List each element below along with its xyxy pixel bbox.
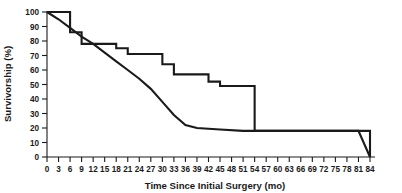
- x-tick-label-54: 54: [250, 165, 260, 174]
- y-axis-ticks: [42, 12, 47, 157]
- x-tick-label-57: 57: [262, 165, 272, 174]
- x-axis-tick-labels: 0369121518212427303336394245485154576063…: [45, 165, 375, 174]
- survivorship-plot: 0102030405060708090100 03691215182124273…: [0, 0, 402, 193]
- x-tick-label-60: 60: [273, 165, 283, 174]
- x-tick-label-33: 33: [169, 165, 179, 174]
- lower-smooth-survivorship-curve: [47, 12, 370, 157]
- y-tick-label-10: 10: [30, 139, 40, 148]
- x-tick-label-9: 9: [79, 165, 84, 174]
- y-tick-label-40: 40: [30, 95, 40, 104]
- x-tick-label-3: 3: [56, 165, 61, 174]
- x-tick-label-18: 18: [112, 165, 122, 174]
- y-axis-tick-labels: 0102030405060708090100: [25, 8, 39, 162]
- x-tick-label-78: 78: [342, 165, 352, 174]
- x-axis-ticks: [47, 157, 370, 162]
- y-tick-label-70: 70: [30, 52, 40, 61]
- y-tick-label-80: 80: [30, 37, 40, 46]
- x-tick-label-84: 84: [365, 165, 375, 174]
- x-tick-label-15: 15: [100, 165, 110, 174]
- x-tick-label-0: 0: [45, 165, 50, 174]
- x-tick-label-21: 21: [123, 165, 133, 174]
- y-tick-label-60: 60: [30, 66, 40, 75]
- x-tick-label-30: 30: [158, 165, 168, 174]
- x-tick-label-81: 81: [354, 165, 364, 174]
- x-tick-label-72: 72: [319, 165, 329, 174]
- y-tick-label-50: 50: [30, 81, 40, 90]
- x-tick-label-75: 75: [331, 165, 341, 174]
- y-axis-title: Survivorship (%): [2, 46, 13, 122]
- y-tick-label-20: 20: [30, 124, 40, 133]
- y-tick-label-30: 30: [30, 110, 40, 119]
- x-tick-label-66: 66: [296, 165, 306, 174]
- x-tick-label-69: 69: [308, 165, 318, 174]
- x-axis-title: Time Since Initial Surgery (mo): [145, 180, 286, 191]
- upper-stepped-survivorship-curve: [47, 12, 370, 157]
- x-tick-label-51: 51: [239, 165, 249, 174]
- x-tick-label-24: 24: [135, 165, 145, 174]
- survivorship-chart-figure: 0102030405060708090100 03691215182124273…: [0, 0, 402, 193]
- x-tick-label-27: 27: [146, 165, 156, 174]
- y-tick-label-0: 0: [34, 153, 39, 162]
- x-tick-label-42: 42: [204, 165, 214, 174]
- x-tick-label-6: 6: [68, 165, 73, 174]
- x-tick-label-48: 48: [227, 165, 237, 174]
- x-tick-label-39: 39: [192, 165, 202, 174]
- x-tick-label-63: 63: [285, 165, 295, 174]
- y-tick-label-90: 90: [30, 23, 40, 32]
- y-tick-label-100: 100: [25, 8, 39, 17]
- x-tick-label-45: 45: [215, 165, 225, 174]
- x-tick-label-12: 12: [89, 165, 99, 174]
- x-tick-label-36: 36: [181, 165, 191, 174]
